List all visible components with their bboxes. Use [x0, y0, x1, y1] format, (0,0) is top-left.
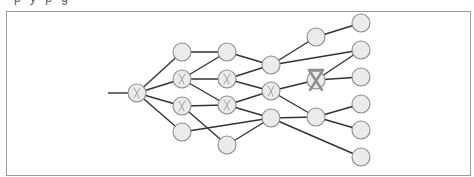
- node-circle: [218, 43, 236, 61]
- node-E1: [307, 28, 325, 46]
- node-C1: [218, 43, 236, 61]
- node-C3: [218, 96, 236, 114]
- node-circle: [262, 56, 280, 74]
- node-circle: [218, 136, 236, 154]
- node-circle: [352, 95, 370, 113]
- node-A: [128, 84, 146, 102]
- node-B4: [173, 123, 191, 141]
- node-B1: [173, 43, 191, 61]
- node-E2: [307, 70, 325, 90]
- node-F5: [352, 121, 370, 139]
- node-circle: [352, 121, 370, 139]
- node-D2: [262, 82, 280, 100]
- node-E3: [307, 108, 325, 126]
- node-circle: [307, 108, 325, 126]
- node-circle: [173, 43, 191, 61]
- node-C2: [218, 70, 236, 88]
- node-B2: [173, 70, 191, 88]
- node-B3: [173, 97, 191, 115]
- figure-frame: [7, 12, 471, 176]
- node-F6: [352, 148, 370, 166]
- edge-D1-F2: [271, 50, 361, 65]
- node-F1: [352, 14, 370, 32]
- node-circle: [352, 14, 370, 32]
- node-F4: [352, 95, 370, 113]
- node-circle: [352, 41, 370, 59]
- node-circle: [352, 68, 370, 86]
- node-F2: [352, 41, 370, 59]
- edge-B4-D3: [182, 118, 271, 132]
- network-diagram: [0, 0, 474, 177]
- node-D1: [262, 56, 280, 74]
- node-circle: [352, 148, 370, 166]
- node-F3: [352, 68, 370, 86]
- node-circle: [307, 28, 325, 46]
- node-circle: [173, 123, 191, 141]
- node-D3: [262, 109, 280, 127]
- node-circle: [262, 109, 280, 127]
- node-C4: [218, 136, 236, 154]
- node-layer: [128, 14, 370, 166]
